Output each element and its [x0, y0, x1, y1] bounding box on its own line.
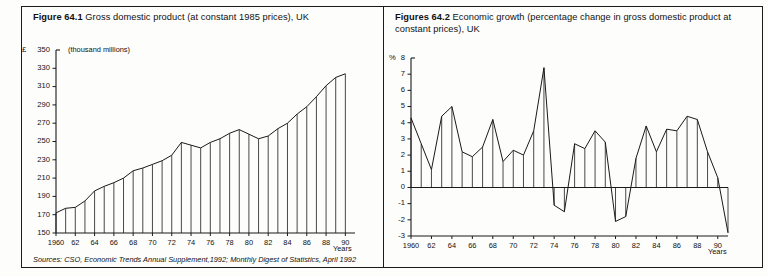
gdp-y-tick-label: 150 — [20, 228, 50, 237]
growth-plot-area — [383, 0, 768, 276]
gdp-chart: £ (thousand millions) Years 150170190210… — [0, 0, 383, 276]
growth-y-tick-label: 0 — [375, 182, 405, 191]
growth-y-tick-label: -2 — [375, 215, 405, 224]
gdp-y-tick-label: 330 — [20, 63, 50, 72]
gdp-y-tick-label: 210 — [20, 173, 50, 182]
gdp-y-tick-label: 250 — [20, 136, 50, 145]
growth-y-tick-label: -3 — [375, 231, 405, 240]
gdp-y-tick-label: 170 — [20, 210, 50, 219]
growth-y-tick-label: 5 — [375, 101, 405, 110]
growth-y-tick-label: -1 — [375, 198, 405, 207]
growth-y-tick-label: 2 — [375, 150, 405, 159]
growth-y-tick-label: 7 — [375, 69, 405, 78]
growth-y-tick-label: 3 — [375, 134, 405, 143]
gdp-x-tick-label: 90 — [331, 238, 359, 247]
growth-y-tick-label: 8 — [375, 53, 405, 62]
growth-y-tick-label: 6 — [375, 85, 405, 94]
growth-chart: % Years -3-2-101234567819606264666870727… — [383, 0, 768, 276]
gdp-y-tick-label: 350 — [20, 45, 50, 54]
gdp-y-tick-label: 310 — [20, 81, 50, 90]
figure-panel: Figure 64.1 Gross domestic product (at c… — [0, 0, 768, 276]
growth-y-tick-label: 1 — [375, 166, 405, 175]
gdp-y-tick-label: 270 — [20, 118, 50, 127]
sources-text: CSO, Economic Trends Annual Supplement,1… — [64, 255, 356, 264]
gdp-y-tick-label: 290 — [20, 100, 50, 109]
gdp-y-tick-label: 190 — [20, 191, 50, 200]
growth-y-tick-label: 4 — [375, 118, 405, 127]
sources-line: Sources: CSO, Economic Trends Annual Sup… — [33, 255, 356, 264]
gdp-unit-note: (thousand millions) — [68, 45, 130, 54]
sources-prefix: Sources: — [33, 255, 62, 264]
gdp-plot-area — [0, 0, 383, 276]
growth-x-tick-label: 90 — [704, 241, 732, 250]
gdp-y-tick-label: 230 — [20, 155, 50, 164]
